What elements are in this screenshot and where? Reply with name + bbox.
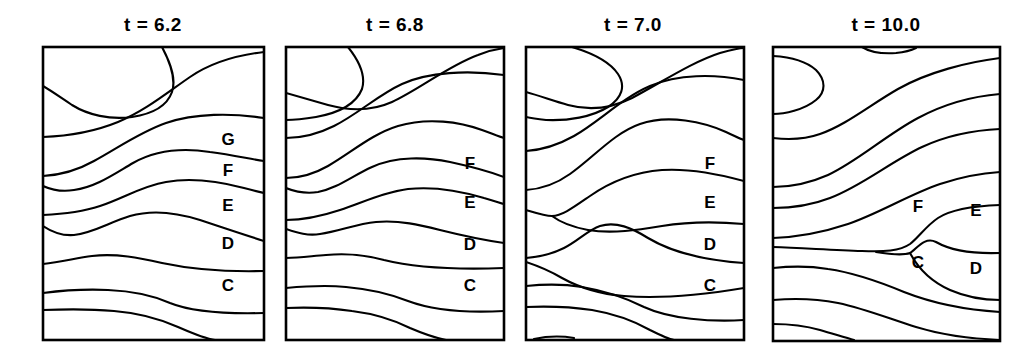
contour-label-d: D	[970, 259, 982, 278]
contour-label-d: D	[222, 234, 234, 253]
contour-label-e: E	[464, 193, 475, 212]
contour-label-f: F	[223, 161, 233, 180]
panel-3-title: t = 7.0	[604, 14, 662, 35]
panel-4-frame	[773, 47, 1000, 341]
contour-label-c: C	[464, 276, 476, 295]
panel-2: t = 6.8 F E D C	[286, 14, 504, 340]
contour-label-d: D	[704, 235, 716, 254]
contour-label-c: C	[704, 276, 716, 295]
contour-label-f: F	[465, 154, 475, 173]
contour-label-c: C	[222, 276, 234, 295]
contour-label-c: C	[912, 253, 924, 272]
panel-3: t = 7.0 F E D C	[526, 14, 744, 340]
contour-figure: t = 6.2 G F E D C t =	[0, 0, 1036, 364]
contour-label-f: F	[705, 154, 715, 173]
contour-label-d: D	[464, 235, 476, 254]
panel-1-title: t = 6.2	[124, 14, 182, 35]
panel-2-title: t = 6.8	[366, 14, 424, 35]
contour-label-g: G	[221, 130, 234, 149]
contour-label-f: F	[913, 197, 923, 216]
panel-4: t = 10.0 F E C D	[773, 14, 1000, 341]
panel-4-title: t = 10.0	[852, 14, 921, 35]
contour-label-e: E	[704, 193, 715, 212]
contour-label-e: E	[222, 196, 233, 215]
panel-1: t = 6.2 G F E D C	[43, 14, 264, 340]
contour-label-e: E	[970, 201, 981, 220]
